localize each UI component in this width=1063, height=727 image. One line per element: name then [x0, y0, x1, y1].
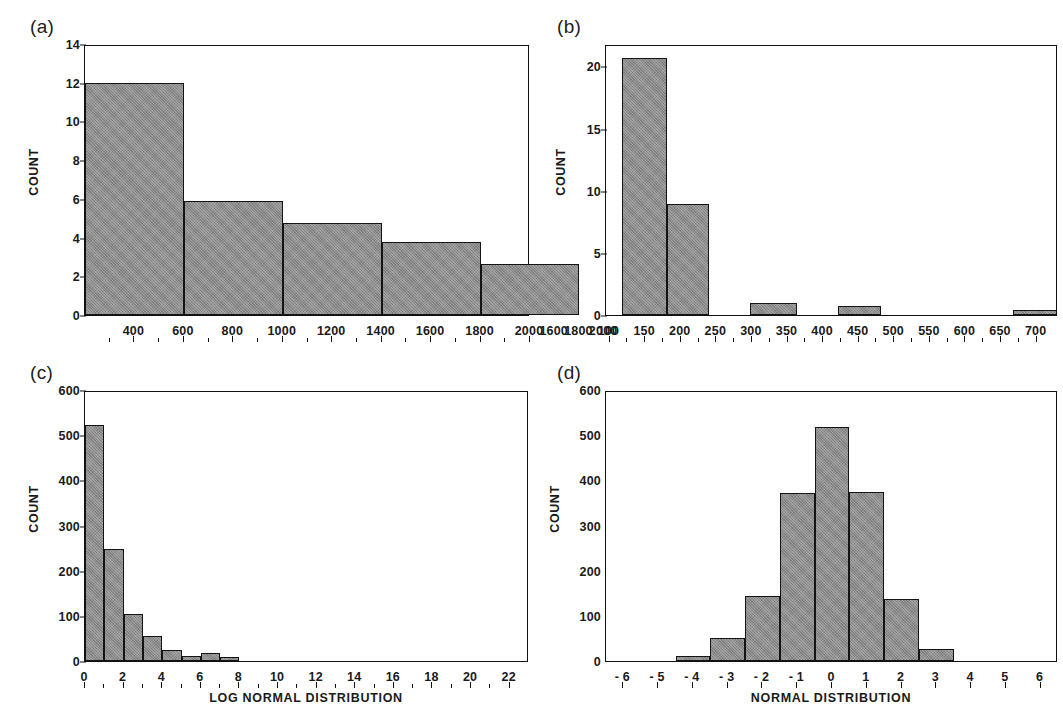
y-tick-label: 600 [59, 384, 80, 398]
y-tick-mark [80, 616, 86, 617]
histogram-bar [780, 493, 815, 661]
x-tick-label: 3 [932, 670, 939, 684]
panel-c-y-axis: 0100200300400500600 [38, 391, 80, 662]
histogram-bar [220, 657, 239, 661]
y-tick-mark [80, 526, 86, 527]
y-tick-label: 500 [59, 429, 80, 443]
x-minor-tick-mark [875, 338, 876, 342]
x-tick-label: 500 [883, 324, 904, 338]
panel-b-x-axis: 100150200250300350400450500550600650700 [605, 316, 1057, 342]
x-minor-tick-mark [769, 338, 770, 342]
y-tick-label: 400 [59, 474, 80, 488]
x-tick-label: - 2 [754, 670, 769, 684]
y-tick-mark [80, 45, 86, 46]
x-tick-label: - 3 [719, 670, 734, 684]
histogram-bar [622, 58, 667, 315]
x-tick-label: 4 [966, 670, 973, 684]
x-tick-label: 100 [598, 324, 619, 338]
y-tick-label: 100 [580, 610, 601, 624]
x-tick-label: 200 [669, 324, 690, 338]
x-tick-label: - 6 [615, 670, 630, 684]
y-tick-mark [80, 481, 86, 482]
x-tick-label: 16 [386, 670, 400, 684]
y-tick-label: 200 [580, 565, 601, 579]
y-tick-label: 600 [580, 384, 601, 398]
x-tick-label: 1000 [267, 324, 296, 338]
x-tick-label: 600 [954, 324, 975, 338]
x-minor-tick-mark [219, 684, 220, 688]
histogram-bar [919, 649, 954, 661]
x-tick-label: 2 [897, 670, 904, 684]
x-tick-label: 0 [80, 670, 87, 684]
histogram-bar [745, 596, 780, 661]
y-tick-label: 100 [59, 610, 80, 624]
x-minor-tick-mark [451, 684, 452, 688]
x-tick-label: 2 [119, 670, 126, 684]
histogram-bar [838, 306, 881, 315]
histogram-bar [382, 242, 481, 315]
x-tick-label: 250 [705, 324, 726, 338]
x-tick-label: 700 [1025, 324, 1046, 338]
x-tick-label: 20 [463, 670, 477, 684]
y-tick-mark [80, 161, 86, 162]
x-minor-tick-mark [296, 684, 297, 688]
x-tick-label: 300 [740, 324, 761, 338]
y-tick-mark [80, 122, 86, 123]
x-tick-label: 650 [989, 324, 1010, 338]
x-tick-label: 400 [123, 324, 144, 338]
panel-a: (a) COUNT 02468101214 400600800100012001… [0, 0, 540, 350]
histogram-bar [676, 656, 711, 661]
x-minor-tick-mark [181, 684, 182, 688]
x-minor-tick-mark [142, 684, 143, 688]
x-minor-tick-mark [405, 338, 406, 342]
x-minor-tick-mark [258, 684, 259, 688]
x-tick-label: 1 [862, 670, 869, 684]
panel-b-plot-frame [605, 45, 1057, 316]
y-tick-mark [80, 436, 86, 437]
panel-b: (b) COUNT 05101520 100150200250300350400… [535, 0, 1063, 350]
panel-a-plot-frame [84, 45, 529, 316]
x-tick-label: 6 [1036, 670, 1043, 684]
panel-d-y-axis: 0100200300400500600 [559, 391, 601, 662]
x-minor-tick-mark [335, 684, 336, 688]
x-tick-label: 12 [308, 670, 322, 684]
x-tick-label: 6 [196, 670, 203, 684]
panel-c-letter: (c) [30, 362, 53, 384]
y-tick-mark [80, 277, 86, 278]
histogram-bar [884, 599, 919, 661]
panel-b-y-tick-marks [599, 45, 607, 316]
x-minor-tick-mark [947, 338, 948, 342]
y-tick-label: 300 [59, 520, 80, 534]
panel-d: (d) COUNT 0100200300400500600 - 6- 5- 4-… [535, 352, 1063, 727]
x-minor-tick-mark [208, 338, 209, 342]
panel-d-x-axis: - 6- 5- 4- 3- 2- 10123456 [605, 662, 1057, 688]
panel-d-plot-frame [605, 391, 1057, 662]
x-tick-label: 10 [270, 670, 284, 684]
x-minor-tick-mark [982, 338, 983, 342]
y-tick-mark [601, 191, 607, 192]
x-minor-tick-mark [307, 338, 308, 342]
x-tick-label: - 4 [684, 670, 699, 684]
histogram-bar [104, 549, 123, 661]
x-minor-tick-mark [733, 338, 734, 342]
x-tick-label: 1800 [465, 324, 494, 338]
x-tick-label: 22 [502, 670, 516, 684]
panel-a-plot-area [85, 46, 528, 315]
x-minor-tick-mark [662, 338, 663, 342]
x-tick-label: 1400 [366, 324, 395, 338]
x-tick-label: 0 [827, 670, 834, 684]
y-tick-mark [601, 253, 607, 254]
histogram-bar [1013, 310, 1057, 315]
x-tick-label: 600 [172, 324, 193, 338]
panel-a-y-axis: 02468101214 [48, 45, 80, 316]
x-tick-label: 400 [811, 324, 832, 338]
panel-c: (c) COUNT 0100200300400500600 0246810121… [0, 352, 540, 727]
x-tick-label: 1200 [317, 324, 346, 338]
histogram-bar [283, 223, 382, 315]
histogram-bar [124, 614, 143, 661]
y-tick-mark [601, 129, 607, 130]
x-minor-tick-mark [158, 338, 159, 342]
x-minor-tick-mark [504, 338, 505, 342]
panel-c-y-tick-marks [78, 391, 86, 662]
panel-c-plot-frame [84, 391, 528, 662]
